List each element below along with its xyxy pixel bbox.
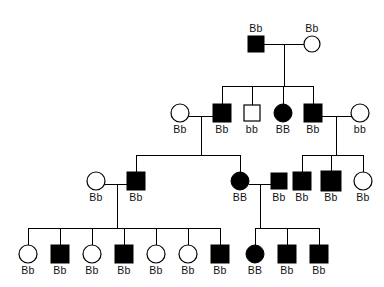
symbol-male-affected[interactable]: [271, 173, 287, 189]
symbol-female-unaffected[interactable]: [304, 36, 320, 52]
pedigree-chart: Bb Bb Bb Bb bb BB Bb bb: [0, 0, 384, 287]
individual-II-2[interactable]: Bb: [213, 104, 231, 135]
symbol-female-unaffected[interactable]: [19, 245, 37, 263]
genotype-label: Bb: [215, 123, 228, 135]
genotype-label: Bb: [280, 264, 293, 276]
symbol-female-unaffected[interactable]: [354, 172, 372, 190]
individual-III-3[interactable]: BB: [231, 172, 249, 203]
genotype-label: Bb: [85, 264, 98, 276]
individual-IV-4[interactable]: Bb: [115, 245, 133, 276]
individual-IV-2[interactable]: Bb: [51, 245, 69, 276]
individual-IV-1[interactable]: Bb: [19, 245, 37, 276]
symbol-female-unaffected[interactable]: [87, 172, 105, 190]
individual-II-5[interactable]: Bb: [304, 104, 322, 135]
genotype-label: BB: [248, 264, 263, 276]
pedigree-diagram-canvas: Bb Bb Bb Bb bb BB Bb bb: [0, 0, 384, 287]
genotype-label: BB: [276, 123, 291, 135]
symbol-male-affected[interactable]: [293, 172, 311, 190]
symbol-female-unaffected[interactable]: [83, 245, 101, 263]
symbol-male-affected[interactable]: [304, 104, 322, 122]
genotype-label: Bb: [181, 264, 194, 276]
genotype-label: BB: [233, 191, 248, 203]
individual-IV-3[interactable]: Bb: [83, 245, 101, 276]
individual-IV-10[interactable]: Bb: [310, 245, 328, 276]
individual-I-1[interactable]: Bb: [248, 22, 264, 52]
symbol-male-affected[interactable]: [310, 245, 328, 263]
symbol-male-affected[interactable]: [278, 245, 296, 263]
symbol-male-affected[interactable]: [248, 36, 264, 52]
symbol-male-affected[interactable]: [115, 245, 133, 263]
symbol-female-unaffected[interactable]: [147, 245, 165, 263]
symbol-male-affected[interactable]: [213, 104, 231, 122]
individual-IV-6[interactable]: Bb: [179, 245, 197, 276]
genotype-label: Bb: [306, 123, 319, 135]
genotype-label: Bb: [213, 264, 226, 276]
symbol-female-affected[interactable]: [246, 245, 264, 263]
individual-II-4[interactable]: BB: [274, 104, 292, 135]
genotype-label: Bb: [117, 264, 130, 276]
individual-II-3[interactable]: bb: [244, 105, 260, 135]
genotype-label: Bb: [272, 191, 285, 203]
individual-I-2[interactable]: Bb: [304, 22, 320, 52]
individual-II-6[interactable]: bb: [351, 104, 369, 135]
symbol-male-affected[interactable]: [127, 172, 145, 190]
symbol-female-unaffected[interactable]: [179, 245, 197, 263]
genotype-label: Bb: [53, 264, 66, 276]
symbol-male-affected[interactable]: [51, 245, 69, 263]
individual-III-2[interactable]: Bb: [127, 172, 145, 203]
genotype-label: Bb: [173, 123, 186, 135]
genotype-label: Bb: [312, 264, 325, 276]
genotype-label: Bb: [129, 191, 142, 203]
individual-II-1[interactable]: Bb: [171, 104, 189, 135]
genotype-label: Bb: [324, 191, 337, 203]
individual-III-7[interactable]: Bb: [354, 172, 372, 203]
genotype-label: Bb: [305, 22, 318, 34]
generation-1-group: [222, 44, 313, 105]
individual-III-4[interactable]: Bb: [271, 173, 287, 203]
individual-IV-7[interactable]: Bb: [211, 245, 229, 276]
symbol-female-unaffected[interactable]: [171, 104, 189, 122]
individual-IV-5[interactable]: Bb: [147, 245, 165, 276]
genotype-label: Bb: [356, 191, 369, 203]
individual-III-1[interactable]: Bb: [87, 172, 105, 203]
individual-III-5[interactable]: Bb: [293, 172, 311, 203]
individual-IV-9[interactable]: Bb: [278, 245, 296, 276]
symbol-female-affected[interactable]: [231, 172, 249, 190]
individual-III-6[interactable]: Bb: [321, 171, 341, 203]
genotype-label: bb: [246, 123, 258, 135]
individual-IV-8[interactable]: BB: [246, 245, 264, 276]
genotype-label: bb: [354, 123, 366, 135]
symbol-female-unaffected[interactable]: [351, 104, 369, 122]
symbol-male-unaffected[interactable]: [244, 105, 260, 121]
symbol-male-affected[interactable]: [321, 171, 341, 191]
genotype-label: Bb: [149, 264, 162, 276]
genotype-label: Bb: [21, 264, 34, 276]
symbol-female-affected[interactable]: [274, 104, 292, 122]
genotype-label: Bb: [249, 22, 262, 34]
genotype-label: Bb: [89, 191, 102, 203]
symbol-male-affected[interactable]: [211, 245, 229, 263]
genotype-label: Bb: [295, 191, 308, 203]
